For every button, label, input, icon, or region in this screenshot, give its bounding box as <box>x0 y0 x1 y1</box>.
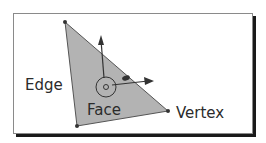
mesh-diagram <box>0 0 266 143</box>
vertex-label: Vertex <box>176 104 224 122</box>
edge-label: Edge <box>25 76 63 94</box>
vertex-point-top <box>63 20 67 24</box>
vertex-point-bottom <box>75 124 79 128</box>
arrow-up-icon <box>98 35 104 45</box>
arrow-right-icon <box>144 77 154 85</box>
face-label: Face <box>87 101 121 119</box>
vertex-point-right <box>166 109 170 113</box>
